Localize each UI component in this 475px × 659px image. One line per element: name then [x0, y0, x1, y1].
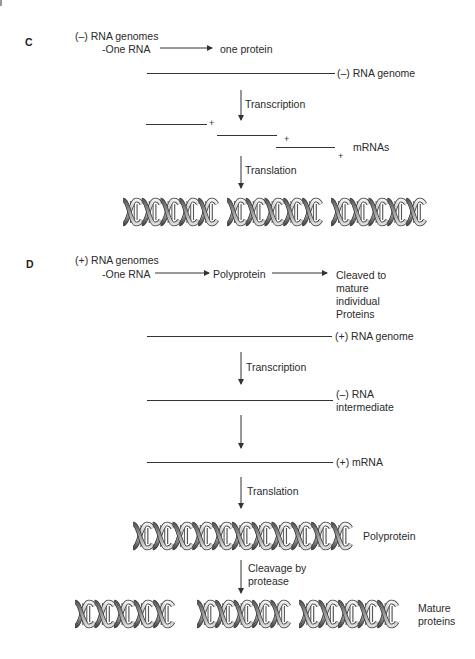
protein-helix-c-3: [331, 200, 425, 224]
mature-protein-helix-3: [299, 602, 397, 626]
mature-protein-helix-1: [75, 602, 173, 626]
mature-protein-helix-2: [197, 602, 289, 626]
polyprotein-helix: [133, 524, 351, 548]
protein-helix-c-1: [123, 200, 217, 224]
protein-helix-c-2: [227, 200, 321, 224]
diagram-graphics: [0, 0, 475, 659]
